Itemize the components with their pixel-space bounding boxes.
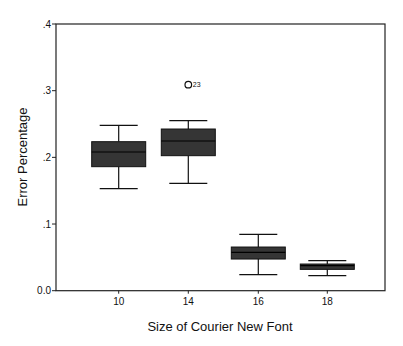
outlier-label: 23 — [193, 81, 201, 88]
iqr-box — [231, 247, 285, 259]
box-plot-chart: 0.0.1.2.3.4 10141618 23 Error Percentage… — [0, 0, 403, 346]
box-18 — [300, 261, 354, 276]
y-tick-label: .2 — [43, 152, 52, 163]
y-tick-label: .1 — [43, 219, 52, 230]
x-tick-label: 10 — [113, 296, 125, 307]
y-axis-title: Error Percentage — [15, 108, 30, 207]
box-16 — [231, 234, 285, 274]
iqr-box — [161, 129, 215, 156]
x-tick-label: 14 — [183, 296, 195, 307]
x-tick-label: 18 — [322, 296, 334, 307]
box-group: 23 — [92, 81, 355, 276]
y-tick-label: .4 — [43, 19, 52, 30]
y-tick-label: .3 — [43, 85, 52, 96]
iqr-box — [92, 142, 146, 167]
iqr-box — [300, 264, 354, 269]
y-tick-label: 0.0 — [37, 285, 51, 296]
outlier-point — [185, 81, 192, 88]
box-10 — [92, 125, 146, 188]
x-tick-label: 16 — [253, 296, 265, 307]
box-14: 23 — [161, 81, 215, 183]
x-axis-title: Size of Courier New Font — [147, 319, 293, 334]
x-axis: 10141618 — [113, 291, 333, 307]
y-axis: 0.0.1.2.3.4 — [37, 19, 56, 297]
